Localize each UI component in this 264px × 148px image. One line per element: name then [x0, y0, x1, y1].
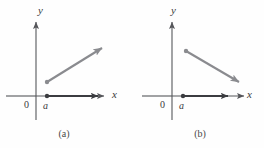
panel-b-caption: (b): [188, 129, 212, 139]
diagonal-vector-tail-dot: [184, 49, 188, 53]
diagonal-vector-up-right: [47, 48, 102, 82]
x-axis-label: x: [247, 89, 252, 100]
diagonal-vector-tail-dot: [45, 80, 49, 84]
y-axis-label: y: [171, 5, 176, 16]
panel-b-graphics: [132, 0, 264, 148]
origin-label: 0: [24, 100, 29, 110]
y-axis-label: y: [38, 5, 43, 16]
point-a-label: a: [179, 101, 184, 111]
diagonal-vector-down-right: [186, 51, 239, 82]
panel-a-graphics: [0, 0, 132, 148]
vector-diagram-figure: y x 0 a (a): [0, 0, 264, 148]
point-a-label: a: [43, 101, 48, 111]
panel-a: y x 0 a (a): [0, 0, 132, 148]
panel-b: y x 0 a (b): [132, 0, 264, 148]
base-point-dot: [181, 94, 185, 98]
base-point-dot: [45, 94, 49, 98]
origin-label: 0: [160, 100, 165, 110]
x-axis-label: x: [112, 89, 117, 100]
panel-a-caption: (a): [52, 129, 76, 139]
